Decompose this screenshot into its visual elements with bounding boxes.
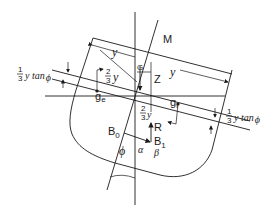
frac-left-num: 2 (106, 67, 111, 76)
gi-leader-arrow (168, 122, 176, 124)
dim-y-right (180, 70, 228, 82)
frac-center-var: y (146, 109, 152, 120)
frac-center-num: 2 (141, 104, 146, 113)
label-y-left: y (111, 45, 118, 59)
tan-right-num: 1 (227, 107, 232, 116)
tan-left-den: 3 (18, 74, 23, 83)
label-alpha: α (138, 144, 144, 155)
ge-leader-arrow (97, 69, 103, 70)
label-m: M (163, 33, 172, 45)
label-r: R (154, 121, 162, 133)
frac-left-var: y (112, 70, 119, 84)
label-y-right: y (169, 65, 176, 79)
label-phi: ϕ (119, 144, 125, 158)
frac-center-den: 3 (141, 113, 146, 122)
diagram-canvas: M G Z R B0 B1 ge gi y y 2 3 y 2 3 y 1 3 … (0, 0, 275, 221)
label-beta: β (153, 147, 159, 158)
b0-b1-arrow (124, 133, 150, 142)
label-b0: B0 (108, 125, 120, 140)
tan-left-num: 1 (18, 65, 23, 74)
tan-right-expr: y tanϕ (233, 112, 260, 125)
frac-left-den: 3 (106, 76, 111, 85)
tan-left-expr: y tanϕ (24, 70, 51, 83)
label-z: Z (154, 73, 161, 85)
phi-arc (110, 175, 135, 178)
label-g: G (137, 63, 143, 72)
stability-diagram: M G Z R B0 B1 ge gi y y 2 3 y 2 3 y 1 3 … (0, 0, 275, 221)
label-gi: gi (170, 96, 178, 110)
tan-right-den: 3 (227, 116, 232, 125)
